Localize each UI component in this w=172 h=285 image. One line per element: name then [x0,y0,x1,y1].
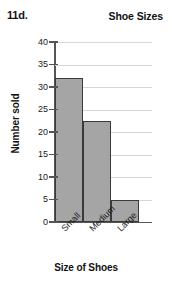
y-axis-tick-label: 40 [38,38,48,47]
question-number-label: 11d. [7,9,28,21]
gridline [55,65,152,66]
y-axis-tick-label: 25 [38,105,48,114]
y-axis-tick [49,154,58,155]
y-axis-tick [49,131,58,132]
y-axis-tick [49,41,58,42]
y-axis-tick-label: 10 [38,173,48,182]
x-axis-title: Size of Shoes [0,262,172,273]
gridline [55,42,152,43]
y-axis-title: Number sold [10,74,21,174]
y-axis-tick [49,64,58,65]
y-axis-tick [49,86,58,87]
y-axis-tick [49,176,58,177]
y-axis-tick-label: 15 [38,150,48,159]
chart-title: Shoe Sizes [109,10,163,22]
y-axis-tick [49,221,58,222]
bar-small [55,78,83,222]
y-axis-tick-label: 30 [38,83,48,92]
y-axis-tick-label: 35 [38,60,48,69]
y-axis-tick-label: 0 [43,218,48,227]
y-axis-tick [49,199,58,200]
y-axis-tick-label: 5 [43,195,48,204]
y-axis-tick-label: 20 [38,128,48,137]
y-axis-tick [49,109,58,110]
shoe-sizes-bar-chart: 11d. Shoe Sizes Number sold 051015202530… [0,0,172,285]
plot-area [55,42,152,222]
